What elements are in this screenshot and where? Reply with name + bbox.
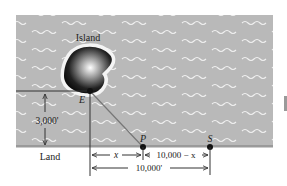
height-label: 3,000' xyxy=(35,116,58,126)
water-area xyxy=(16,15,273,148)
point-e-label: E xyxy=(78,94,85,105)
land-label: Land xyxy=(40,151,61,162)
point-p-label: P xyxy=(139,133,146,144)
x-label: x xyxy=(113,150,119,160)
point-e-marker xyxy=(87,88,93,94)
remaining-distance-label: 10,000 − x xyxy=(157,150,196,160)
total-distance-label: 10,000' xyxy=(136,163,163,173)
island-label: Island xyxy=(76,32,100,43)
island-shore-diagram: Island E P S 3,000' Land x 10,000 − x 10… xyxy=(0,0,287,186)
point-s-label: S xyxy=(208,133,213,144)
island xyxy=(64,47,112,93)
edge-marker xyxy=(284,96,287,111)
